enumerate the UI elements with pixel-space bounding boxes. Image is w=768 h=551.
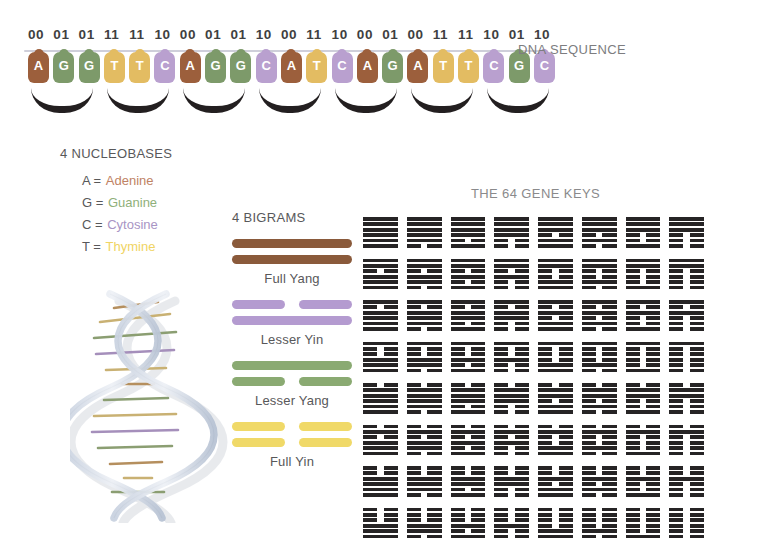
hexagram[interactable] <box>626 342 661 373</box>
hexagram-segment <box>407 471 421 475</box>
hexagram-line-yin <box>363 269 398 273</box>
hexagram[interactable] <box>363 383 398 414</box>
hexagram[interactable] <box>494 383 529 414</box>
hexagram-line-yang <box>494 430 529 434</box>
hexagram[interactable] <box>582 383 617 414</box>
hexagram[interactable] <box>363 508 398 539</box>
hexagram[interactable] <box>669 383 704 414</box>
hexagram[interactable] <box>669 425 704 456</box>
hexagram[interactable] <box>626 466 661 497</box>
hexagram[interactable] <box>626 217 661 248</box>
hexagram-segment <box>471 513 485 517</box>
hexagram[interactable] <box>538 466 573 497</box>
hexagram[interactable] <box>669 217 704 248</box>
hexagram[interactable] <box>669 342 704 373</box>
hexagram-line-yang <box>494 342 529 346</box>
hexagram[interactable] <box>451 259 486 290</box>
hexagram-segment <box>515 529 529 533</box>
hexagram-segment <box>602 466 616 470</box>
hexagram[interactable] <box>626 259 661 290</box>
hexagram[interactable] <box>669 508 704 539</box>
hexagram[interactable] <box>538 300 573 331</box>
hexagram[interactable] <box>363 425 398 456</box>
hexagram-line-yang <box>363 488 398 492</box>
hexagram[interactable] <box>494 217 529 248</box>
hexagram[interactable] <box>538 425 573 456</box>
hexagram[interactable] <box>494 425 529 456</box>
hexagram[interactable] <box>669 466 704 497</box>
hexagram[interactable] <box>407 259 442 290</box>
bigram-segment <box>232 239 352 248</box>
hexagram-segment <box>471 347 485 351</box>
hexagram-line-yang <box>538 322 573 326</box>
hexagram-line-yin <box>669 446 704 450</box>
hexagram[interactable] <box>494 300 529 331</box>
hexagram-line-yang <box>538 280 573 284</box>
hexagram[interactable] <box>407 217 442 248</box>
hexagram[interactable] <box>494 342 529 373</box>
hexagram-line-yin <box>538 233 573 237</box>
hexagram-line-yin <box>451 269 486 273</box>
hexagram[interactable] <box>582 342 617 373</box>
hexagram[interactable] <box>363 217 398 248</box>
hexagram-line-yang <box>494 275 529 279</box>
hexagram[interactable] <box>669 300 704 331</box>
binary-pair: 10 <box>483 26 508 44</box>
hexagram-line-yang <box>451 524 486 528</box>
hexagram-segment <box>494 275 529 279</box>
hexagram-segment <box>690 446 704 450</box>
hexagram[interactable] <box>582 217 617 248</box>
hexagram[interactable] <box>451 466 486 497</box>
hexagram[interactable] <box>363 259 398 290</box>
hexagram[interactable] <box>669 259 704 290</box>
hexagram[interactable] <box>407 300 442 331</box>
hexagram[interactable] <box>494 259 529 290</box>
hexagram[interactable] <box>538 383 573 414</box>
hexagram[interactable] <box>363 466 398 497</box>
hexagram[interactable] <box>407 508 442 539</box>
hexagram[interactable] <box>626 383 661 414</box>
hexagram-segment <box>451 529 465 533</box>
hexagram-line-yin <box>582 399 617 403</box>
hexagram-line-yang <box>407 300 442 304</box>
hexagram[interactable] <box>451 383 486 414</box>
hexagram-segment <box>690 524 704 528</box>
hexagram-segment <box>582 466 596 470</box>
hexagram[interactable] <box>451 508 486 539</box>
hexagram-line-yang <box>363 322 398 326</box>
hexagram[interactable] <box>538 259 573 290</box>
hexagram[interactable] <box>582 300 617 331</box>
hexagram-segment <box>646 280 660 284</box>
hexagram-segment <box>384 269 398 273</box>
hexagram[interactable] <box>626 300 661 331</box>
hexagram[interactable] <box>407 383 442 414</box>
hexagram[interactable] <box>626 508 661 539</box>
hexagram-line-yin <box>407 508 442 512</box>
hexagram[interactable] <box>582 425 617 456</box>
hexagram[interactable] <box>538 217 573 248</box>
hexagram[interactable] <box>451 217 486 248</box>
hexagram[interactable] <box>363 300 398 331</box>
hexagram[interactable] <box>538 508 573 539</box>
hexagram[interactable] <box>494 466 529 497</box>
hexagram[interactable] <box>582 508 617 539</box>
hexagram-segment <box>538 430 573 434</box>
hexagram[interactable] <box>626 425 661 456</box>
hexagram[interactable] <box>407 342 442 373</box>
hexagram[interactable] <box>407 466 442 497</box>
hexagram-segment <box>559 508 573 512</box>
hexagram[interactable] <box>451 342 486 373</box>
hexagram-segment <box>602 425 616 429</box>
hexagram[interactable] <box>451 300 486 331</box>
hexagram[interactable] <box>451 425 486 456</box>
hexagram[interactable] <box>407 425 442 456</box>
hexagram-line-yin <box>626 352 661 356</box>
hexagram[interactable] <box>363 342 398 373</box>
hexagram[interactable] <box>582 259 617 290</box>
hexagram-line-yang <box>538 286 573 290</box>
hexagram[interactable] <box>582 466 617 497</box>
hexagram[interactable] <box>538 342 573 373</box>
hexagram-line-yin <box>669 369 704 373</box>
hexagram-segment <box>669 388 704 392</box>
hexagram[interactable] <box>494 508 529 539</box>
